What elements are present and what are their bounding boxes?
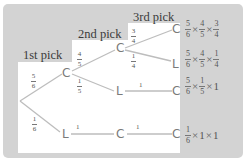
node-2nd-cc: C [116, 42, 124, 54]
outcome-lcc: 16 × 1 × 1 [185, 126, 218, 145]
node-3rd-clc: C [172, 85, 180, 97]
outcome-ccl: 56 × 45 × 14 [185, 50, 219, 69]
edge-prob-c-l: 15 [77, 78, 82, 95]
node-3rd-ccc: C [172, 23, 180, 35]
edge-prob-c-c: 45 [77, 51, 82, 68]
outcome-clc: 56 × 15 × 1 [185, 77, 219, 96]
edge-prob-cc-c: 34 [131, 28, 136, 45]
node-1st-c: C [62, 67, 70, 79]
edge-prob-cl-c: 1 [139, 82, 143, 89]
node-2nd-lc: C [116, 128, 124, 140]
node-3rd-lcc: C [172, 128, 180, 140]
edge-prob-root-l: 16 [32, 116, 37, 133]
node-1st-l: L [62, 128, 69, 140]
node-2nd-cl: L [116, 85, 123, 97]
edge-prob-root-c: 56 [31, 73, 36, 90]
node-3rd-ccl: L [172, 58, 179, 70]
outcome-ccc: 56 × 45 × 34 [185, 20, 219, 39]
edge-prob-lc-c: 1 [136, 124, 140, 131]
edge-prob-l-c: 1 [76, 124, 80, 131]
edge-prob-cc-l: 14 [131, 53, 136, 70]
